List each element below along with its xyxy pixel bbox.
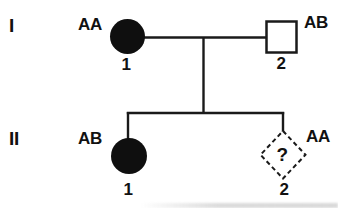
individual-number-I-1: 1 — [121, 56, 130, 73]
genotype-label-I-1: AA — [78, 16, 102, 33]
scan-artifact — [140, 203, 338, 208]
individual-II-1-affected-female-symbol — [111, 138, 147, 174]
genotype-label-II-1: AB — [78, 130, 102, 147]
individual-I-2-unaffected-male-symbol — [267, 22, 297, 53]
generation-label-I: I — [9, 16, 14, 35]
genotype-label-II-2: AA — [306, 128, 330, 145]
individual-number-II-2: 2 — [279, 181, 288, 198]
generation-label-II: II — [9, 129, 19, 148]
individual-number-II-1: 1 — [123, 181, 132, 198]
pedigree-lines-and-symbols — [0, 0, 338, 208]
unknown-genotype-question-mark: ? — [276, 145, 287, 164]
genotype-label-I-2: AB — [304, 14, 328, 31]
individual-I-1-affected-female-symbol — [110, 19, 145, 54]
individual-number-I-2: 2 — [276, 55, 285, 72]
pedigree-diagram: I II AA 1 AB 2 AB 1 AA 2 ? — [0, 0, 338, 208]
